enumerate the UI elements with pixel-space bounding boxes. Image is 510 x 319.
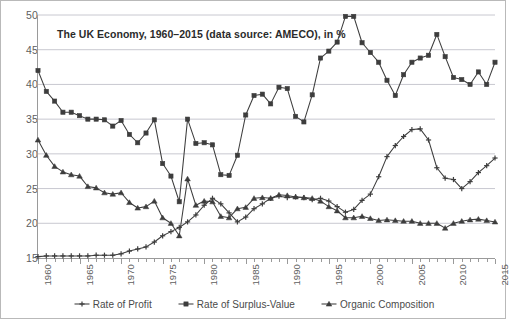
data-point-marker — [293, 114, 297, 118]
x-tick — [379, 259, 380, 262]
x-tick — [304, 259, 305, 262]
legend-marker-icon — [74, 299, 90, 309]
data-point-marker — [69, 110, 73, 114]
data-point-marker — [410, 60, 414, 64]
x-tick — [63, 259, 64, 262]
legend-item-0[interactable]: Rate of Profit — [74, 299, 152, 310]
data-point-marker — [360, 41, 364, 45]
data-point-marker — [185, 176, 191, 181]
x-tick-label-1995: 1995 — [333, 264, 344, 286]
data-point-marker — [343, 14, 347, 18]
data-point-marker — [118, 251, 123, 256]
x-tick-label-2005: 2005 — [416, 264, 427, 286]
plot-svg — [38, 15, 495, 258]
data-point-marker — [60, 253, 65, 258]
legend-label: Rate of Surplus-Value — [197, 299, 295, 310]
x-tick — [387, 259, 388, 262]
data-point-marker — [334, 208, 340, 213]
x-tick — [429, 259, 430, 262]
data-point-marker — [36, 68, 40, 72]
data-point-marker — [219, 173, 223, 177]
data-point-marker — [86, 117, 90, 121]
x-tick — [104, 259, 105, 262]
y-tick-label-30: 30 — [8, 148, 38, 160]
y-tick-label-15: 15 — [8, 252, 38, 264]
data-point-marker — [310, 93, 314, 97]
data-point-marker — [227, 173, 231, 177]
x-tick — [271, 259, 272, 262]
x-tick — [138, 259, 139, 262]
x-tick — [237, 259, 238, 262]
x-tick — [462, 259, 463, 262]
data-point-marker — [118, 190, 124, 195]
x-axis-labels: 1960196519701975198019851990199520002005… — [38, 264, 495, 292]
y-axis: 1520253035404550 — [1, 1, 38, 272]
x-tick-label-1990: 1990 — [291, 264, 302, 286]
data-point-marker — [143, 244, 148, 249]
data-point-marker — [326, 204, 332, 209]
data-point-marker — [402, 73, 406, 77]
data-point-marker — [193, 203, 199, 208]
x-tick — [113, 259, 114, 262]
data-point-marker — [426, 53, 430, 57]
data-point-marker — [152, 198, 158, 203]
x-tick — [254, 259, 255, 262]
x-tick-label-2010: 2010 — [457, 264, 468, 286]
data-point-marker — [235, 153, 239, 157]
x-tick — [478, 259, 479, 262]
x-tick-label-2015: 2015 — [499, 264, 510, 286]
data-point-marker — [377, 60, 381, 64]
data-point-marker — [368, 50, 372, 54]
y-tick-label-35: 35 — [8, 113, 38, 125]
data-point-marker — [418, 56, 422, 60]
data-point-marker — [218, 214, 224, 219]
data-point-marker — [176, 233, 182, 238]
y-tick-label-50: 50 — [8, 9, 38, 21]
y-tick-label-45: 45 — [8, 44, 38, 56]
data-point-marker — [202, 141, 206, 145]
x-tick — [470, 259, 471, 262]
y-tick-label-20: 20 — [8, 217, 38, 229]
legend-item-1[interactable]: Rate of Surplus-Value — [178, 299, 295, 310]
x-tick — [129, 259, 130, 262]
series-line — [38, 16, 495, 201]
data-point-marker — [77, 253, 82, 258]
data-point-marker — [443, 55, 447, 59]
data-point-marker — [210, 143, 214, 147]
x-tick — [55, 259, 56, 262]
data-point-marker — [44, 89, 48, 93]
x-tick — [46, 259, 47, 262]
data-point-marker — [102, 118, 106, 122]
data-point-marker — [460, 77, 464, 81]
data-point-marker — [79, 301, 84, 306]
data-point-marker — [127, 132, 131, 136]
x-tick — [321, 259, 322, 262]
data-point-marker — [94, 117, 98, 121]
data-point-marker — [168, 229, 173, 234]
data-point-marker — [177, 200, 181, 204]
data-point-marker — [252, 93, 256, 97]
data-point-marker — [442, 225, 448, 230]
x-tick — [71, 259, 72, 262]
data-point-marker — [61, 110, 65, 114]
x-tick — [495, 259, 496, 264]
legend-label: Rate of Profit — [93, 299, 152, 310]
data-point-marker — [451, 75, 455, 79]
x-tick — [179, 259, 180, 262]
x-tick — [96, 259, 97, 262]
data-point-marker — [52, 253, 57, 258]
x-tick — [262, 259, 263, 262]
data-point-marker — [102, 190, 108, 195]
data-point-marker — [85, 253, 90, 258]
legend-item-2[interactable]: Organic Composition — [321, 299, 434, 310]
data-point-marker — [318, 56, 322, 60]
data-point-marker — [476, 70, 480, 74]
data-point-marker — [102, 253, 107, 258]
x-tick — [487, 259, 488, 262]
x-tick — [296, 259, 297, 262]
x-tick — [212, 259, 213, 262]
data-point-marker — [44, 253, 49, 258]
x-tick — [345, 259, 346, 262]
x-tick — [171, 259, 172, 262]
data-point-marker — [244, 113, 248, 117]
